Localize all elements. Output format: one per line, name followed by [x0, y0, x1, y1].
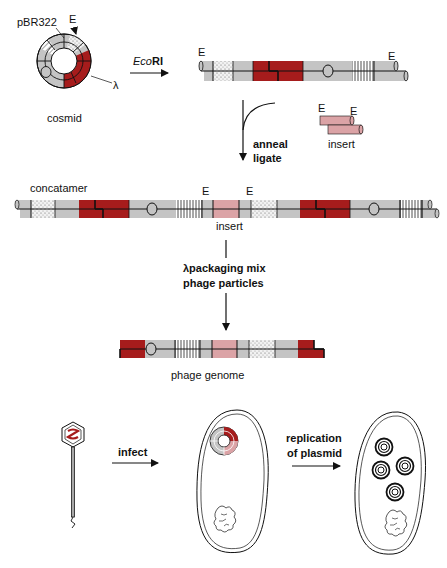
insert-ecori-left: E — [318, 103, 325, 114]
replication-label-1: replication — [286, 433, 342, 444]
concat-insert-label: insert — [216, 221, 243, 232]
linear-cosmid — [199, 61, 408, 81]
concat-ecori-right: E — [246, 186, 253, 197]
insert-join-curve — [243, 103, 275, 130]
enzyme-label: EcoRI — [133, 56, 163, 67]
linear-ecori-right: E — [388, 51, 395, 62]
packaging-label-2: phage particles — [183, 278, 264, 289]
insert-fragment — [320, 116, 363, 134]
ligate-label: ligate — [253, 153, 282, 164]
ecori-site-label: E — [69, 14, 76, 25]
plasmid-copy — [373, 462, 390, 479]
enzyme-italic: Eco — [133, 55, 152, 67]
lambda-label: λ — [113, 80, 119, 91]
concat-ecori-left: E — [202, 186, 209, 197]
insert-label: insert — [328, 139, 355, 150]
plasmid-copy — [387, 484, 404, 501]
bacterium-replicated — [355, 412, 426, 554]
linear-ecori-left: E — [198, 47, 205, 58]
bacterium-infected — [197, 410, 268, 553]
infect-label: infect — [118, 447, 147, 458]
replication-label-2: of plasmid — [287, 448, 342, 459]
concatamer-label: concatamer — [30, 183, 87, 194]
phage-genome-label: phage genome — [171, 370, 244, 381]
pbr322-label: pBR322 — [17, 17, 57, 28]
plasmid-copy — [397, 458, 414, 475]
insert-ecori-right: E — [350, 106, 357, 117]
anneal-label: anneal — [253, 139, 288, 150]
plasmid-copy — [376, 439, 393, 456]
phage-particle — [62, 422, 84, 528]
cosmid-label: cosmid — [47, 113, 82, 124]
phage-genome — [120, 340, 324, 358]
concatamer — [15, 200, 439, 218]
enzyme-bold: RI — [152, 55, 163, 67]
circular-cosmid — [37, 27, 112, 88]
packaging-label-1: λpackaging mix — [183, 263, 266, 274]
